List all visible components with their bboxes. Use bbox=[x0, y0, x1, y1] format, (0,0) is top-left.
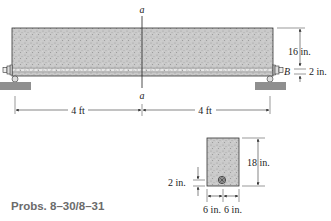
left-anchor-icon bbox=[3, 65, 13, 75]
beam-cross-section: 18 in. 2 in. 6 in. 6 in. bbox=[168, 138, 270, 215]
width-left-dim: 6 in. bbox=[203, 204, 221, 215]
rebar-icon bbox=[218, 176, 225, 183]
span-left-dim: 4 ft bbox=[71, 105, 85, 116]
cover-dim: 2 in. bbox=[309, 66, 327, 77]
point-b-label: B bbox=[284, 66, 290, 77]
width-right-dim: 6 in. bbox=[224, 204, 242, 215]
right-support-icon bbox=[255, 76, 286, 90]
section-label-bottom: a bbox=[140, 90, 145, 101]
section-height-dim: 18 in. bbox=[247, 157, 270, 168]
section-cover-dim: 2 in. bbox=[168, 177, 186, 188]
left-support-icon bbox=[0, 76, 31, 90]
beam-diagram: a a 16 in. 2 in. B 4 ft 4 ft bbox=[0, 0, 331, 221]
right-anchor-icon bbox=[273, 65, 283, 75]
section-concrete bbox=[207, 138, 239, 186]
problem-caption: Probs. 8–30/8–31 bbox=[11, 200, 104, 212]
span-right-dim: 4 ft bbox=[198, 105, 212, 116]
section-label-top: a bbox=[140, 4, 145, 15]
concrete-beam bbox=[12, 28, 273, 76]
beam-height-dim: 16 in. bbox=[288, 46, 311, 57]
beam-elevation: a a 16 in. 2 in. B 4 ft 4 ft bbox=[0, 4, 327, 116]
